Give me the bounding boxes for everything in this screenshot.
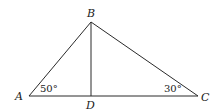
label-b: B [86, 7, 95, 20]
triangle-diagram: A B C D 50° 30° [0, 0, 222, 112]
label-d: D [85, 99, 95, 112]
angle-a-label: 50° [40, 83, 58, 94]
label-c: C [201, 91, 210, 104]
segment-bc [91, 22, 198, 96]
angle-c-label: 30° [164, 83, 182, 94]
label-a: A [14, 90, 23, 103]
segment-ab [29, 22, 91, 96]
